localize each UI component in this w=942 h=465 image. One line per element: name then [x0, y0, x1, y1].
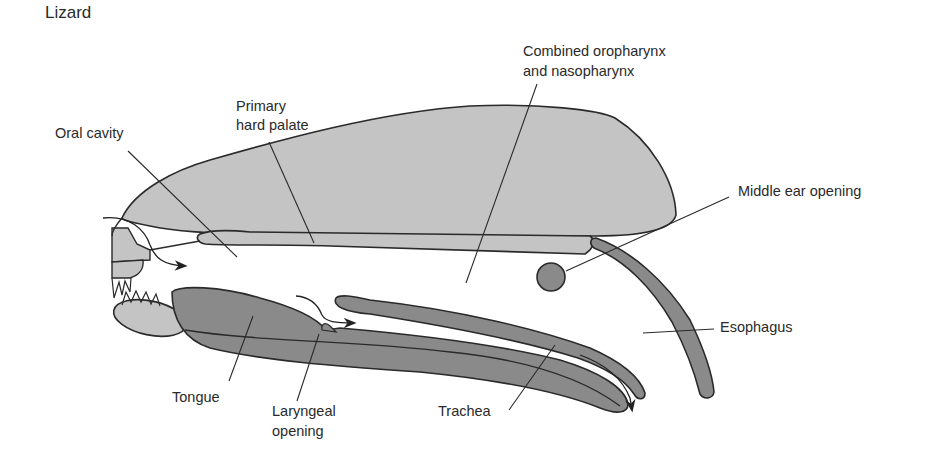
lizard-pharynx-diagram	[0, 0, 942, 465]
label-trachea: Trachea	[438, 402, 491, 420]
upper-jaw-lower	[112, 260, 143, 278]
label-laryngeal-opening-line2: opening	[272, 422, 324, 440]
label-primary-hard-palate-line1: Primary	[236, 97, 286, 115]
esophagus	[591, 238, 714, 398]
label-middle-ear-opening: Middle ear opening	[738, 182, 861, 200]
label-combined-pharynx-line2: and nasopharynx	[523, 62, 634, 80]
label-combined-pharynx-line1: Combined oropharynx	[523, 42, 666, 60]
label-laryngeal-opening-line1: Laryngeal	[272, 402, 336, 420]
label-oral-cavity: Oral cavity	[55, 124, 124, 142]
label-tongue: Tongue	[172, 388, 220, 406]
label-esophagus: Esophagus	[720, 318, 793, 336]
laryngeal-flap	[322, 324, 336, 332]
skull-upper-head	[122, 105, 676, 238]
middle-ear-opening	[537, 263, 565, 291]
label-primary-hard-palate-line2: hard palate	[236, 116, 309, 134]
